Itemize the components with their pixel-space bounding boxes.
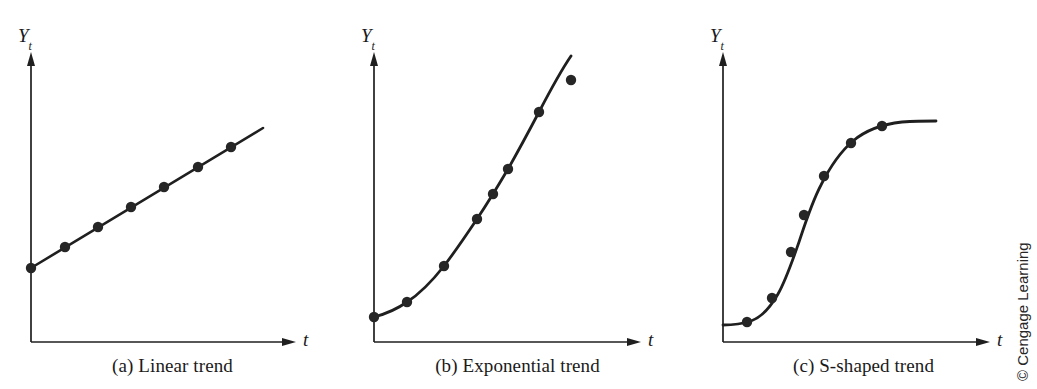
panel-exponential-trend: Yt t (b) Exponential trend [345, 0, 690, 389]
data-markers [742, 121, 887, 327]
copyright-credit: © Cengage Learning [1009, 151, 1035, 381]
x-axis-label: t [648, 330, 653, 349]
x-axis [31, 338, 296, 346]
data-point [534, 107, 544, 117]
y-axis-label-subscript: t [721, 39, 724, 53]
data-point [60, 242, 70, 252]
data-point [439, 261, 449, 271]
y-axis-label: Yt [361, 26, 375, 49]
trend-curve [723, 121, 936, 325]
data-point [877, 121, 887, 131]
data-point [369, 312, 379, 322]
panel-caption: (b) Exponential trend [345, 355, 690, 377]
x-axis-label: t [303, 330, 308, 349]
panel-s-shaped-trend: Yt t (c) S-shaped trend [690, 0, 1037, 389]
y-axis [27, 52, 35, 342]
panel-caption: (a) Linear trend [0, 355, 345, 377]
s-shaped-trend-plot [690, 0, 1037, 389]
panel-linear-trend: Yt t (a) Linear trend [0, 0, 345, 389]
panel-caption: (c) S-shaped trend [690, 355, 1037, 377]
data-point [786, 247, 796, 257]
data-point [488, 189, 498, 199]
data-point [93, 222, 103, 232]
data-point [566, 75, 576, 85]
data-point [402, 297, 412, 307]
data-point [126, 202, 136, 212]
y-axis-label-subscript: t [372, 39, 375, 53]
data-point [819, 171, 829, 181]
y-axis-label-main: Y [710, 25, 721, 46]
data-point [226, 142, 236, 152]
linear-trend-plot [0, 0, 345, 389]
data-point [472, 214, 482, 224]
trend-figure: Yt t (a) Linear trend [0, 0, 1037, 389]
data-point [26, 263, 36, 273]
exponential-trend-plot [345, 0, 690, 389]
y-axis-label: Yt [710, 26, 724, 49]
data-point [742, 317, 752, 327]
x-axis-label: t [997, 330, 1002, 349]
data-point [193, 162, 203, 172]
copyright-credit-text: © Cengage Learning [1014, 242, 1031, 381]
y-axis-label-main: Y [18, 25, 29, 46]
y-axis [370, 52, 378, 342]
data-point [503, 164, 513, 174]
x-axis [374, 338, 641, 346]
data-point [767, 293, 777, 303]
y-axis-label: Yt [18, 26, 32, 49]
data-point [799, 210, 809, 220]
data-point [159, 182, 169, 192]
y-axis-label-subscript: t [29, 39, 32, 53]
y-axis-label-main: Y [361, 25, 372, 46]
trend-curve [374, 56, 571, 317]
x-axis [723, 338, 990, 346]
data-point [846, 138, 856, 148]
y-axis [719, 52, 727, 342]
data-markers [369, 75, 576, 322]
